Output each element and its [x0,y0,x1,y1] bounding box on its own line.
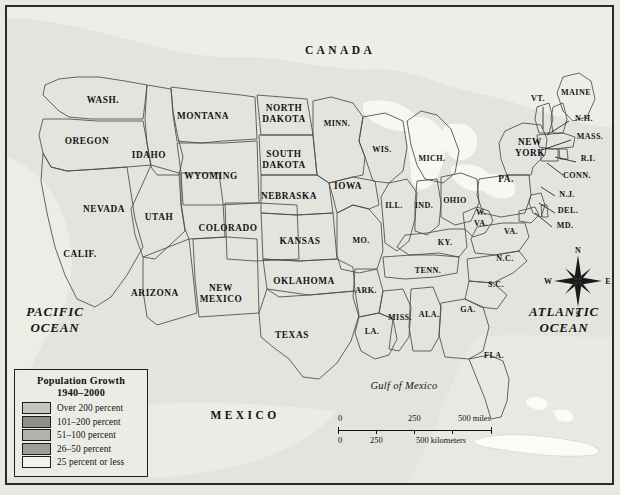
legend-entries: Over 200 percent101–200 percent51–100 pe… [22,402,140,468]
state-label-md: MD. [557,221,574,230]
legend-row[interactable]: 101–200 percent [22,416,140,428]
legend-label: 51–100 percent [57,430,116,440]
state-label-ne: NEBRASKA [261,191,317,201]
scale-miles-tick: 0 [338,414,342,423]
legend-swatch [22,456,51,468]
state-label-sd: SOUTHDAKOTA [262,149,305,170]
state-label-nh: N.H. [575,114,593,123]
state-label-wy: WYOMING [184,171,237,181]
state-label-il: ILL. [385,201,403,210]
compass-west-label: W [544,277,552,286]
country-label-mexico: MEXICO [211,409,280,421]
state-label-ms: MISS. [388,313,412,322]
legend-label: 25 percent or less [57,457,124,467]
state-label-ia: IOWA [334,181,362,191]
state-label-pa: PA. [498,174,514,184]
state-label-ma: MASS. [577,132,604,141]
state-label-nd: NORTHDAKOTA [262,103,305,124]
state-label-ca: CALIF. [63,249,97,259]
state-label-id: IDAHO [132,150,166,160]
map-legend: Population Growth 1940–2000 Over 200 per… [14,369,148,477]
state-label-tn: TENN. [415,266,442,275]
state-label-ky: KY. [438,238,453,247]
state-label-nc: N.C. [496,254,513,263]
gulf-of-mexico-label: Gulf of Mexico [370,380,437,391]
legend-title-line1: Population Growth [22,375,140,387]
state-label-me: MAINE [561,88,591,97]
legend-label: 101–200 percent [57,417,121,427]
state-label-ct: CONN. [563,171,591,180]
state-label-mt: MONTANA [177,111,229,121]
ocean-label-pacific: PACIFICOCEAN [26,304,83,335]
state-label-de: DEL. [558,206,578,215]
state-label-ok: OKLAHOMA [273,276,335,286]
legend-title-line2: 1940–2000 [22,387,140,399]
legend-title: Population Growth 1940–2000 [22,375,140,399]
compass-south-label: S [576,310,581,319]
legend-row[interactable]: Over 200 percent [22,402,140,414]
state-label-in: IND. [415,201,433,210]
state-label-az: ARIZONA [131,288,179,298]
state-label-va: VA. [504,227,518,236]
state-label-mi: MICH. [419,154,446,163]
map-figure: WASH.OREGONIDAHOMONTANAWYOMINGNORTHDAKOT… [0,0,620,495]
legend-row[interactable]: 51–100 percent [22,429,140,441]
state-label-al: ALA. [419,310,440,319]
state-label-ut: UTAH [145,212,174,222]
state-label-ar: ARK. [355,286,377,295]
country-label-canada: CANADA [305,44,375,56]
state-label-co: COLORADO [198,223,257,233]
state-label-ny: NEWYORK [515,137,545,158]
legend-swatch [22,402,51,414]
state-label-fl: FLA. [484,351,504,360]
state-label-wa: WASH. [87,95,119,105]
scale-bar-graphic [338,427,492,434]
state-label-ga: GA. [460,305,475,314]
legend-label: 26–50 percent [57,444,111,454]
legend-swatch [22,416,51,428]
legend-row[interactable]: 25 percent or less [22,456,140,468]
compass-east-label: E [605,277,610,286]
state-label-ri: R.I. [581,154,596,163]
scale-miles-tick: 250 [408,414,421,423]
state-label-wi: WIS. [372,145,391,154]
state-label-oh: OHIO [443,196,467,205]
state-label-la: LA. [365,327,379,336]
state-label-mn: MINN. [324,119,351,128]
state-label-or: OREGON [65,136,110,146]
state-label-ks: KANSAS [279,236,320,246]
scale-km-tick: 250 [370,436,383,445]
state-label-sc: S.C. [488,280,504,289]
legend-swatch [22,443,51,455]
state-label-nj: N.J. [559,190,575,199]
compass-north-label: N [575,246,581,255]
ocean-label-atlantic: ATLANTICOCEAN [528,304,599,335]
state-label-mo: MO. [352,236,369,245]
scale-km-tick: 0 [338,436,342,445]
state-label-nv: NEVADA [83,204,125,214]
legend-swatch [22,429,51,441]
state-label-tx: TEXAS [275,330,309,340]
scale-km-tick: 500 kilometers [416,436,466,445]
scale-miles-tick: 500 miles [458,414,491,423]
legend-row[interactable]: 26–50 percent [22,443,140,455]
legend-label: Over 200 percent [57,403,123,413]
state-label-vt: VT. [531,94,545,103]
